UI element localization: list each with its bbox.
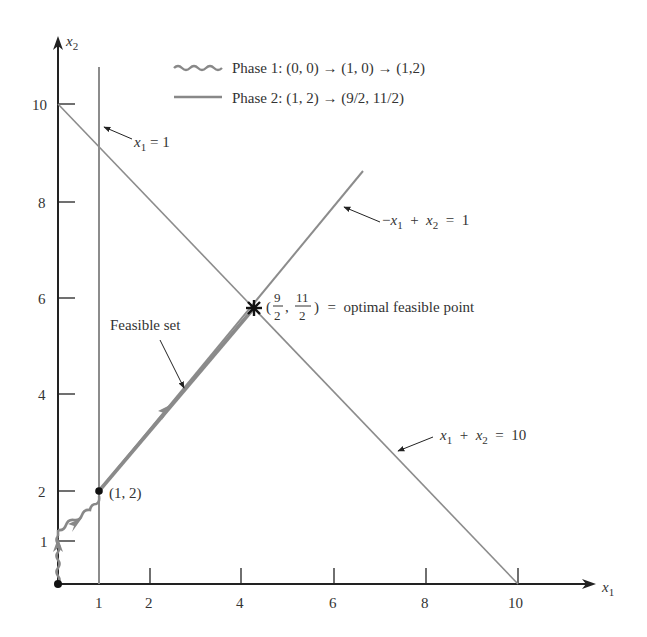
x-tick-8: 8 bbox=[421, 595, 429, 611]
svg-text:2: 2 bbox=[299, 308, 306, 323]
x-tick-2: 2 bbox=[145, 595, 153, 611]
svg-text:= optimal feasible point: = optimal feasible point bbox=[320, 299, 475, 315]
x-tick-4: 4 bbox=[236, 595, 244, 611]
legend: Phase 1: (0, 0) → (1, 0) → (1,2) Phase 2… bbox=[174, 60, 425, 107]
origin-point bbox=[54, 580, 62, 588]
x-ticks bbox=[150, 568, 518, 584]
svg-text:9: 9 bbox=[274, 290, 281, 305]
x-tick-1: 1 bbox=[95, 595, 103, 611]
x-axis-label: x1 bbox=[601, 579, 614, 598]
optimal-point-star-icon bbox=[246, 300, 262, 316]
svg-text:,: , bbox=[285, 299, 289, 315]
x-tick-6: 6 bbox=[329, 595, 337, 611]
svg-text:−x1 + x2 = 1: −x1 + x2 = 1 bbox=[382, 212, 469, 231]
svg-text:Feasible set: Feasible set bbox=[110, 317, 181, 333]
y-tick-4: 4 bbox=[38, 387, 46, 403]
svg-text:2: 2 bbox=[274, 308, 281, 323]
legend-wavy-line-icon bbox=[174, 66, 222, 70]
y-axis-label: x2 bbox=[65, 33, 78, 52]
annotation-x1-eq-1: x1 = 1 bbox=[104, 127, 170, 153]
label-point-1-2: (1, 2) bbox=[109, 485, 142, 502]
constraint-sum-eq-10 bbox=[58, 104, 518, 584]
point-1-2 bbox=[95, 487, 103, 495]
svg-text:): ) bbox=[314, 299, 319, 316]
annotation-sum-line: x1 + x2 = 10 bbox=[398, 427, 526, 451]
y-tick-8: 8 bbox=[38, 195, 46, 211]
y-tick-10: 10 bbox=[32, 97, 47, 113]
svg-text:11: 11 bbox=[296, 290, 309, 305]
y-ticks bbox=[58, 104, 75, 541]
x-tick-10: 10 bbox=[508, 595, 523, 611]
legend-phase2: Phase 2: (1, 2) → (9/2, 11/2) bbox=[232, 90, 404, 107]
y-tick-2: 2 bbox=[38, 484, 46, 500]
annotation-optimal-point: ( 9 2 , 11 2 ) = optimal feasible point bbox=[266, 290, 475, 323]
phase1-path bbox=[53, 496, 99, 584]
svg-text:(: ( bbox=[266, 299, 271, 316]
y-tick-1: 1 bbox=[40, 534, 48, 550]
svg-text:x1 + x2 = 10: x1 + x2 = 10 bbox=[439, 427, 526, 446]
annotation-neg-line: −x1 + x2 = 1 bbox=[344, 207, 469, 231]
legend-phase1: Phase 1: (0, 0) → (1, 0) → (1,2) bbox=[232, 60, 425, 77]
y-tick-6: 6 bbox=[38, 291, 46, 307]
lp-chart: 10 8 6 4 2 1 1 2 4 6 8 10 x2 x1 bbox=[0, 0, 647, 637]
phase2-path bbox=[99, 308, 254, 491]
annotation-feasible-set: Feasible set bbox=[110, 317, 184, 388]
svg-text:x1 = 1: x1 = 1 bbox=[133, 134, 170, 153]
